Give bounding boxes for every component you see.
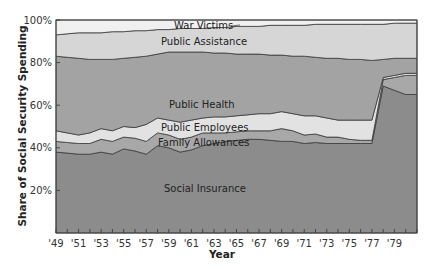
label-public-health: Public Health <box>169 99 235 110</box>
y-tick-label: 100% <box>23 15 52 26</box>
x-tick-label: '67 <box>251 238 266 249</box>
x-tick-label: '77 <box>364 238 379 249</box>
stacked-area-chart: 20%40%60%80%100% '49'51'53'55'57'59'61'6… <box>0 0 432 273</box>
x-tick-label: '61 <box>184 238 199 249</box>
x-tick-label: '79 <box>387 238 402 249</box>
x-tick-label: '53 <box>93 238 108 249</box>
y-tick-label: 20% <box>30 185 52 196</box>
y-tick-label: 80% <box>30 57 52 68</box>
y-tick-label: 40% <box>30 142 52 153</box>
x-tick-label: '49 <box>48 238 63 249</box>
y-axis-ticks: 20%40%60%80%100% <box>23 15 60 196</box>
x-tick-label: '71 <box>296 238 311 249</box>
x-tick-label: '59 <box>161 238 176 249</box>
label-public-assistance: Public Assistance <box>161 36 247 47</box>
y-tick-label: 60% <box>30 100 52 111</box>
y-axis-title: Share of Social Security Spending <box>16 26 28 227</box>
label-social-insurance: Social Insurance <box>164 183 246 194</box>
label-war-victims: War Victims <box>174 20 233 31</box>
x-tick-label: '57 <box>139 238 154 249</box>
label-family-allowances: Family Allowances <box>158 137 249 148</box>
x-tick-label: '69 <box>274 238 289 249</box>
x-tick-label: '55 <box>116 238 131 249</box>
x-tick-label: '73 <box>319 238 334 249</box>
label-public-employees: Public Employees <box>161 122 249 133</box>
x-tick-label: '75 <box>342 238 357 249</box>
x-axis-title: Year <box>208 248 236 260</box>
x-tick-label: '51 <box>71 238 86 249</box>
